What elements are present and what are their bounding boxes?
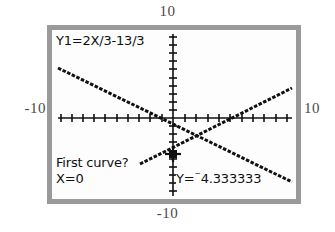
x-max-range-label: 10 bbox=[304, 100, 335, 117]
x-min-range-label: -10 bbox=[2, 100, 46, 117]
x-value-readout: X=0 bbox=[56, 172, 83, 186]
y-value-prefix: Y= bbox=[176, 171, 194, 186]
trace-cursor-icon bbox=[165, 146, 181, 162]
y-max-range-label: 10 bbox=[0, 3, 335, 20]
negative-sign-icon: ⁻ bbox=[194, 169, 200, 183]
y-value-number: 4.333333 bbox=[201, 171, 261, 186]
y-min-range-label: -10 bbox=[0, 205, 335, 222]
equation-readout: Y1=2X/3-13/3 bbox=[56, 34, 144, 48]
y-value-readout: Y=⁻4.333333 bbox=[176, 172, 261, 186]
calculator-screen[interactable]: Y1=2X/3-13/3 First curve? X=0 Y=⁻4.33333… bbox=[47, 25, 301, 204]
first-curve-prompt: First curve? bbox=[56, 156, 128, 170]
series-line-ascending bbox=[140, 88, 292, 164]
